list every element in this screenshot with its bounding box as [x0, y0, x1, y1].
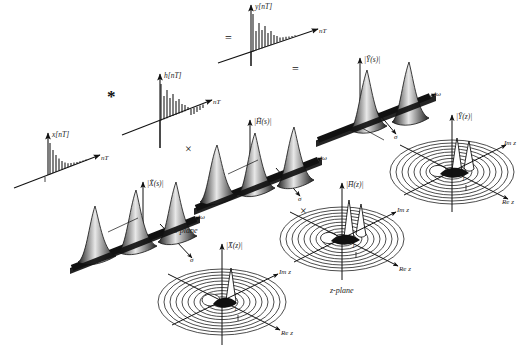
label-axis-nT-x: nT — [101, 155, 108, 162]
label-rez-H: Re z — [399, 266, 411, 273]
panel-H-s — [194, 120, 322, 215]
label-X-s: |X̃(s)| — [147, 180, 164, 188]
label-imz-X: Im z — [279, 269, 291, 276]
impulse-train-x — [50, 143, 86, 174]
operator-convolution: * — [107, 88, 116, 105]
label-Y-s: |Ỹ(s)| — [364, 56, 380, 64]
label-jomega-Y: jω — [434, 91, 441, 98]
impulse-train-y — [253, 14, 295, 52]
axis-rez-Y — [400, 145, 508, 199]
figure-graphics — [0, 0, 526, 363]
label-z-plane: z-plane — [330, 287, 354, 295]
label-axis-nT-h: nT — [213, 99, 220, 106]
spike-Y-z-2 — [464, 141, 474, 171]
label-unit-H-z: 1 — [352, 243, 355, 249]
label-s-plane: s̃-plane — [174, 227, 198, 235]
figure-canvas: x[nT] nT h[nT] nT y[nT] nT |X̃(s)| jω σ … — [0, 0, 526, 363]
label-sigma-Y: σ — [394, 134, 397, 141]
label-jomega-H: jω — [320, 155, 327, 162]
label-rez-X: Re z — [281, 330, 293, 337]
label-imz-H: Im z — [397, 207, 409, 214]
operator-equals-top: = — [225, 32, 232, 44]
panel-y-nT — [218, 5, 318, 66]
panel-Y-s — [316, 58, 436, 147]
operator-multiply-s: × — [185, 143, 192, 155]
label-H-z: |H̄(z)| — [346, 181, 363, 189]
axis-rez-H — [290, 212, 398, 266]
label-jomega-X: jω — [198, 214, 205, 221]
impulse-train-h — [161, 84, 203, 121]
operator-multiply-z: × — [300, 205, 307, 217]
label-X-z: |X̄(z)| — [226, 242, 243, 250]
label-axis-nT-y: nT — [319, 28, 326, 35]
label-x-nT: x[nT] — [52, 131, 69, 139]
axis-rez-X — [168, 274, 280, 330]
label-rez-Y: Re z — [502, 199, 514, 206]
panel-Y-z — [390, 115, 514, 212]
label-sigma-H: σ — [298, 196, 301, 203]
operator-equals-right: = — [292, 63, 299, 75]
label-H-s: |H̃(s)| — [254, 118, 271, 126]
label-unit-Y-z: 1 — [462, 176, 465, 182]
surface-Y-s — [316, 62, 436, 147]
label-unit-X-z: 1 — [234, 306, 237, 312]
panel-x-nT — [14, 133, 100, 188]
panel-X-z — [158, 244, 286, 345]
panel-h-nT — [122, 74, 212, 148]
label-y-nT: y[nT] — [255, 3, 272, 11]
surface-H-s — [194, 127, 322, 215]
label-sigma-X: σ — [190, 257, 193, 264]
axis-nT-x — [14, 155, 100, 188]
label-h-nT: h[nT] — [164, 72, 182, 80]
label-Y-z: |Ȳ(z)| — [456, 113, 472, 121]
label-imz-Y: Im z — [504, 140, 516, 147]
